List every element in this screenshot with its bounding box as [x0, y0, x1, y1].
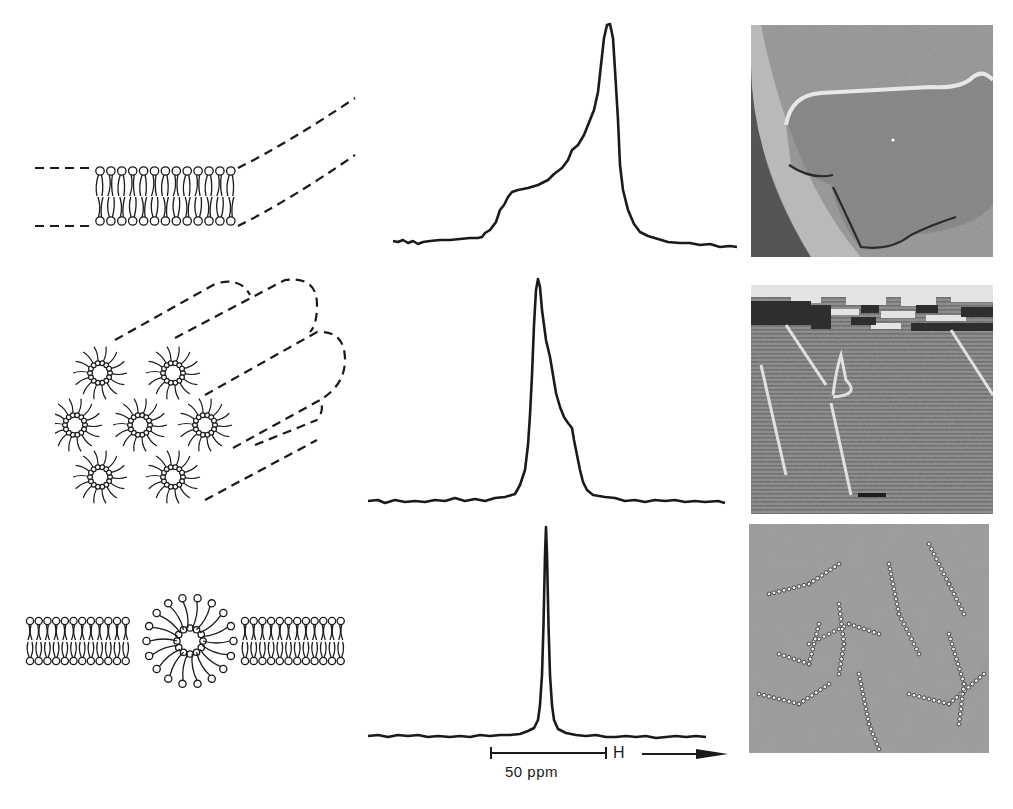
- nmr-spectrum-hexagonal: [360, 265, 732, 515]
- scale-bar: [488, 745, 610, 761]
- nmr-spectrum-bilayer: [390, 10, 742, 255]
- micrograph-lipidic-particles: [749, 524, 989, 753]
- lipidic-particle-diagram: [20, 590, 360, 710]
- scale-bar-label: 50 ppm: [505, 763, 558, 780]
- micrograph-hexagonal: [751, 285, 993, 514]
- bilayer-diagram: [20, 80, 370, 250]
- field-direction-label: H: [613, 744, 625, 762]
- hexagonal-phase-diagram: [55, 270, 365, 520]
- nmr-spectrum-isotropic: [360, 515, 732, 745]
- field-arrow-icon: [640, 746, 730, 762]
- micrograph-bilayer: [751, 25, 993, 257]
